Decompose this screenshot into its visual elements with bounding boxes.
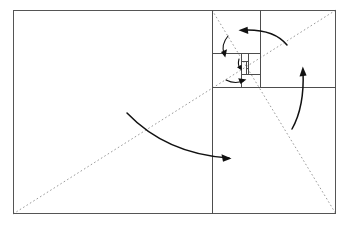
diagram-background (0, 0, 348, 231)
figure-canvas: Golden rectangle whirling-squares subdiv… (0, 0, 348, 231)
whirling-squares-diagram (0, 0, 348, 231)
